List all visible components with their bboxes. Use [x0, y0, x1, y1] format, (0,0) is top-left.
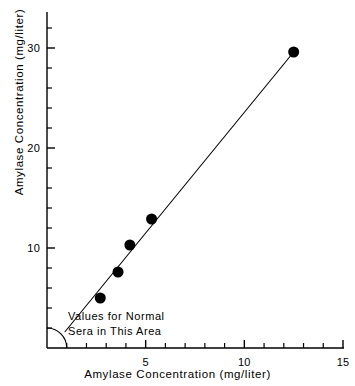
- normal-region-arc: [47, 328, 67, 348]
- scatter-plot-canvas: [0, 0, 355, 386]
- data-points: [95, 47, 299, 304]
- normal-sera-annotation-line-2: Sera in This Area: [68, 325, 162, 337]
- data-point-marker: [113, 267, 124, 278]
- x-axis-title: Amylase Concentration (mg/liter): [0, 368, 355, 380]
- y-tick-label: 10: [14, 242, 40, 254]
- x-tick-label: 5: [142, 356, 148, 368]
- normal-region-arc-path: [47, 328, 67, 348]
- normal-sera-annotation-line-1: Values for Normal: [68, 310, 165, 322]
- chart-figure: 102030 51015 Values for Normal Sera in T…: [0, 0, 355, 386]
- data-point-marker: [124, 240, 135, 251]
- axes: [47, 12, 344, 348]
- fit-line: [65, 52, 294, 332]
- x-tick-label: 15: [337, 356, 350, 368]
- fit-line-segment: [65, 52, 294, 332]
- x-axis-ticks: [67, 340, 343, 348]
- x-tick-label: 10: [238, 356, 251, 368]
- data-point-marker: [146, 214, 157, 225]
- y-axis-title: Amylase Concentration (mg/liter): [13, 0, 25, 217]
- data-point-marker: [95, 293, 106, 304]
- y-axis-ticks: [47, 28, 55, 328]
- data-point-marker: [288, 47, 299, 58]
